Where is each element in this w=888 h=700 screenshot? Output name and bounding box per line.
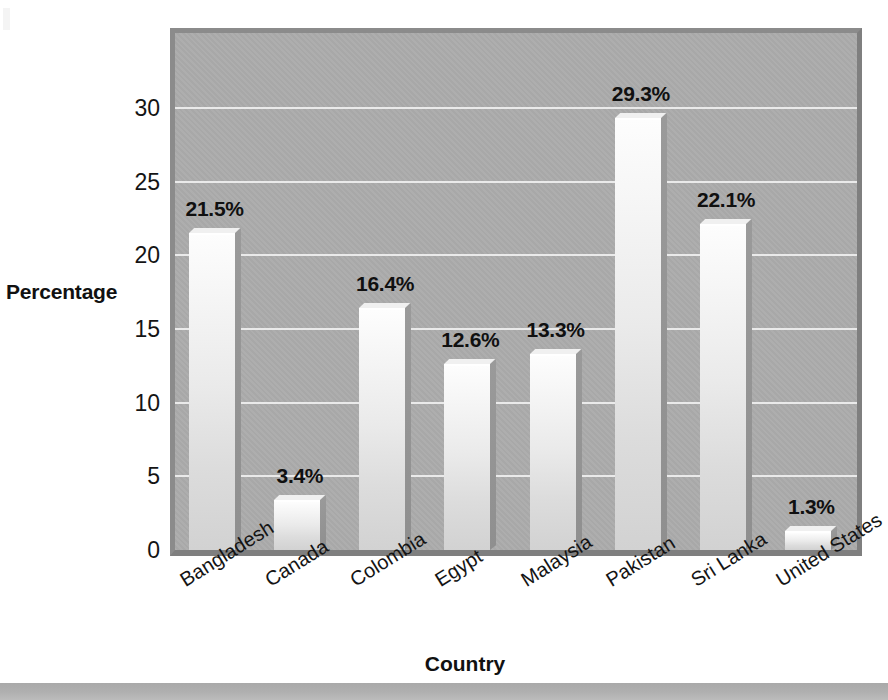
bar-top-cap: [700, 219, 751, 224]
bar-value-label: 22.1%: [697, 188, 755, 212]
y-axis-tick-label: 5: [100, 463, 160, 490]
scan-artifact-mark: [3, 8, 10, 30]
bar-top-cap: [785, 526, 836, 531]
gridline: [175, 254, 857, 256]
plot-frame: [170, 28, 862, 556]
bar-side-shadow: [661, 114, 667, 550]
bar-top-cap: [359, 303, 410, 308]
bar-side-shadow: [746, 220, 752, 550]
bar-top-cap: [274, 495, 325, 500]
bar-face: [615, 118, 661, 550]
bar-face: [530, 354, 576, 550]
y-axis-tick-label: 25: [100, 168, 160, 195]
bar: [359, 308, 405, 550]
bar-value-label: 29.3%: [612, 82, 670, 106]
y-axis-tick-label: 10: [100, 389, 160, 416]
bar-value-label: 3.4%: [277, 464, 324, 488]
bar-top-cap: [530, 349, 581, 354]
bar: [700, 224, 746, 550]
bar: [444, 364, 490, 550]
bar-chart-figure: Percentage 051015202530 21.5%3.4%16.4%12…: [0, 0, 888, 700]
bar-side-shadow: [405, 304, 411, 550]
bar: [530, 354, 576, 550]
y-axis-tick-label: 30: [100, 95, 160, 122]
bar: [189, 233, 235, 550]
bar-value-label: 1.3%: [788, 495, 835, 519]
bar-top-cap: [615, 113, 666, 118]
bar-side-shadow: [576, 349, 582, 550]
y-axis-tick-label: 20: [100, 242, 160, 269]
gridline: [175, 107, 857, 109]
bar-value-label: 21.5%: [186, 197, 244, 221]
bar-face: [189, 233, 235, 550]
x-axis-title: Country: [0, 652, 888, 676]
bar-value-label: 13.3%: [527, 318, 585, 342]
bar-side-shadow: [235, 229, 241, 550]
scan-artifact-strip: [0, 683, 888, 700]
bar-top-cap: [444, 359, 495, 364]
y-axis-tick-labels: 051015202530: [98, 0, 160, 700]
gridline: [175, 328, 857, 330]
gridline: [175, 181, 857, 183]
y-axis-tick-label: 0: [100, 537, 160, 564]
bar-face: [700, 224, 746, 550]
gridline: [175, 402, 857, 404]
bar-side-shadow: [490, 360, 496, 550]
y-axis-tick-label: 15: [100, 316, 160, 343]
bar-face: [359, 308, 405, 550]
bar-value-label: 16.4%: [356, 272, 414, 296]
bar-value-label: 12.6%: [441, 328, 499, 352]
bar: [615, 118, 661, 550]
bar-top-cap: [189, 228, 240, 233]
bar-face: [444, 364, 490, 550]
